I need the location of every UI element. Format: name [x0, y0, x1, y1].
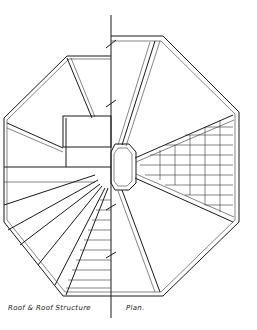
roof-finish-half [111, 36, 239, 296]
caption-plan: Plan. [126, 304, 145, 312]
roof-structure-half [4, 56, 111, 296]
caption-title: Roof & Roof Structure [8, 304, 91, 312]
decking-lines [66, 200, 111, 288]
shingle-pattern [140, 120, 233, 212]
roof-plan-drawing [0, 0, 257, 330]
